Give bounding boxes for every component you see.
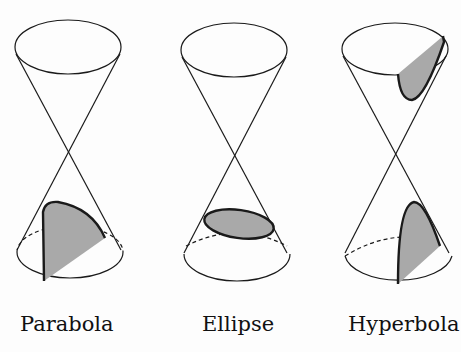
- label-parabola: Parabola: [20, 312, 114, 336]
- conic-sections-diagram: [0, 0, 461, 352]
- label-ellipse: Ellipse: [202, 312, 274, 336]
- label-hyperbola: Hyperbola: [348, 312, 459, 336]
- parabola-section: [44, 202, 105, 281]
- hyperbola-upper-section: [398, 37, 444, 100]
- parabola-cone: [15, 20, 123, 281]
- ellipse-cone: [181, 23, 290, 281]
- hyperbola-cone: [342, 23, 452, 284]
